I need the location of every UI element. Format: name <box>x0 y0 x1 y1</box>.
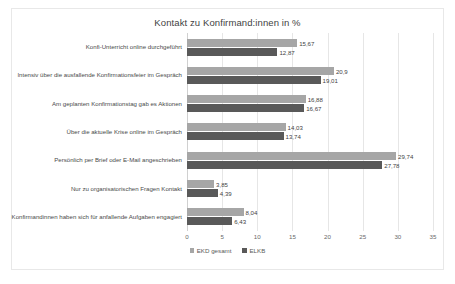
chart-legend: EKD gesamtELKB <box>12 247 443 254</box>
bar-elkb: 12,87 <box>187 48 277 56</box>
chart-container: Kontakt zu Konfirmand:innen in % 0510152… <box>11 8 444 270</box>
bar-ekd-gesamt: 15,67 <box>187 39 297 47</box>
category-label: Konfirmandinnen haben sich für anfallend… <box>12 213 182 220</box>
legend-item[interactable]: EKD gesamt <box>190 247 232 254</box>
bar-ekd-gesamt: 8,04 <box>187 208 244 216</box>
category-label: Konfi-Unterricht online durchgeführt <box>86 44 182 51</box>
bar-ekd-gesamt: 20,9 <box>187 67 334 75</box>
bar-elkb: 16,67 <box>187 104 304 112</box>
bar-group: Über die aktuelle Krise online im Gesprä… <box>187 118 433 146</box>
bar-value-label: 3,85 <box>216 181 228 188</box>
bar-ekd-gesamt: 29,74 <box>187 152 396 160</box>
x-tick-label: 25 <box>359 233 366 240</box>
bar-group: Am geplanten Konfirmationstag gab es Akt… <box>187 90 433 118</box>
bar-value-label: 20,9 <box>336 67 348 74</box>
category-label: Über die aktuelle Krise online im Gesprä… <box>67 129 183 136</box>
x-tick-label: 10 <box>254 233 261 240</box>
bar-value-label: 16,88 <box>308 96 323 103</box>
bar-elkb: 19,01 <box>187 76 321 84</box>
bar-value-label: 16,67 <box>306 105 321 112</box>
category-label: Persönlich per Brief oder E-Mail angesch… <box>54 157 182 164</box>
bar-ekd-gesamt: 16,88 <box>187 95 306 103</box>
plot-area: 05101520253035 Konfi-Unterricht online d… <box>187 33 433 231</box>
bar-group: Nur zu organisatorischen Fragen Kontakt3… <box>187 174 433 202</box>
legend-label: ELKB <box>249 247 265 254</box>
bar-elkb: 4,39 <box>187 189 218 197</box>
legend-item[interactable]: ELKB <box>242 247 265 254</box>
bar-group: Intensiv über die ausfallende Konfirmati… <box>187 61 433 89</box>
bar-ekd-gesamt: 14,03 <box>187 123 286 131</box>
bar-group: Persönlich per Brief oder E-Mail angesch… <box>187 146 433 174</box>
bar-elkb: 13,74 <box>187 132 284 140</box>
bar-value-label: 29,74 <box>398 152 413 159</box>
gridline <box>433 33 434 231</box>
x-tick-label: 15 <box>289 233 296 240</box>
x-tick-label: 0 <box>185 233 188 240</box>
bar-value-label: 12,87 <box>279 48 294 55</box>
chart-title: Kontakt zu Konfirmand:innen in % <box>12 17 443 28</box>
bar-value-label: 4,39 <box>220 190 232 197</box>
x-tick-label: 5 <box>220 233 223 240</box>
bar-value-label: 6,43 <box>234 218 246 225</box>
bar-elkb: 6,43 <box>187 217 232 225</box>
bar-value-label: 15,67 <box>299 39 314 46</box>
bar-value-label: 14,03 <box>288 124 303 131</box>
bar-value-label: 8,04 <box>246 209 258 216</box>
bar-value-label: 13,74 <box>286 133 301 140</box>
x-tick-label: 30 <box>394 233 401 240</box>
bar-ekd-gesamt: 3,85 <box>187 180 214 188</box>
bar-group: Konfi-Unterricht online durchgeführt15,6… <box>187 33 433 61</box>
x-tick-label: 20 <box>324 233 331 240</box>
bar-value-label: 19,01 <box>323 76 338 83</box>
legend-swatch-icon <box>190 248 195 253</box>
category-label: Nur zu organisatorischen Fragen Kontakt <box>71 185 182 192</box>
category-label: Intensiv über die ausfallende Konfirmati… <box>17 72 182 79</box>
bar-group: Konfirmandinnen haben sich für anfallend… <box>187 203 433 231</box>
legend-label: EKD gesamt <box>197 247 232 254</box>
bar-value-label: 27,78 <box>384 161 399 168</box>
category-label: Am geplanten Konfirmationstag gab es Akt… <box>52 100 182 107</box>
x-tick-label: 35 <box>430 233 437 240</box>
bar-elkb: 27,78 <box>187 161 382 169</box>
legend-swatch-icon <box>242 248 247 253</box>
